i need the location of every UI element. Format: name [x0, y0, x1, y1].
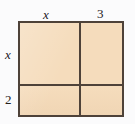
horizontal-divider-line [18, 84, 124, 86]
cell-bottom-left [20, 88, 77, 115]
cell-top-left [20, 23, 77, 82]
dimension-label-left-upper: x [5, 48, 11, 61]
outer-rectangle [18, 21, 124, 117]
dimension-label-top-right: 3 [97, 7, 104, 20]
area-model-diagram: x 3 x 2 [0, 0, 135, 124]
cell-top-right [83, 23, 122, 82]
dimension-label-left-lower: 2 [5, 93, 12, 106]
vertical-divider-line [79, 21, 81, 117]
dimension-label-top-left: x [43, 8, 49, 21]
cell-bottom-right [83, 88, 122, 115]
